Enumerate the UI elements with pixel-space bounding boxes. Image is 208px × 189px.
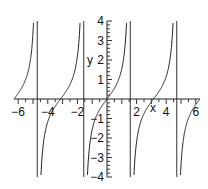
tan-curve-branch xyxy=(14,23,34,99)
y-tick-label: −2 xyxy=(90,131,104,145)
y-axis-label: y xyxy=(87,53,93,67)
x-tick-label: 2 xyxy=(133,105,140,119)
y-tick-label: −4 xyxy=(90,170,104,184)
chart: −6−4−2246 −4−3−2−11234 x y xyxy=(0,0,208,189)
x-tick-label: −2 xyxy=(71,105,85,119)
x-tick-labels: −6−4−2246 xyxy=(11,105,199,119)
y-tick-label: −1 xyxy=(90,112,104,126)
y-tick-label: 3 xyxy=(97,34,104,48)
x-tick-label: −6 xyxy=(11,105,25,119)
y-tick-label: −3 xyxy=(90,151,104,165)
x-tick-label: 4 xyxy=(163,105,170,119)
y-tick-label: 1 xyxy=(97,73,104,87)
x-tick-label: 6 xyxy=(192,105,199,119)
y-tick-label: 4 xyxy=(97,14,104,28)
y-tick-label: 2 xyxy=(97,53,104,67)
x-tick-label: −4 xyxy=(41,105,55,119)
x-axis-label: x xyxy=(150,101,156,115)
